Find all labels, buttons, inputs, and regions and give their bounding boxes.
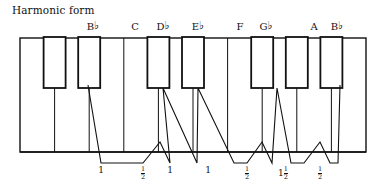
note-label-d-flat: D♭ <box>156 20 169 33</box>
interval-label-step-7: 12 <box>318 166 322 181</box>
interval-label-step-6: 112 <box>278 166 288 181</box>
note-label-c: C <box>131 20 139 33</box>
note-letter: D <box>156 21 164 32</box>
black-key-5 <box>251 37 273 88</box>
black-key-7 <box>320 37 342 88</box>
black-key-1 <box>44 37 66 88</box>
note-letter: F <box>237 21 244 32</box>
interval-label-step-5: 12 <box>245 166 249 181</box>
flat-icon: ♭ <box>94 19 99 32</box>
black-keys <box>44 37 343 88</box>
fraction-one-half: 12 <box>141 166 145 181</box>
black-key-2 <box>78 37 100 88</box>
harmonic-form-figure: Harmonic form <box>0 0 387 194</box>
black-key-6 <box>286 37 308 88</box>
fraction-one-half: 12 <box>318 166 322 181</box>
fraction-one-half: 12 <box>245 166 249 181</box>
whole-part: 1 <box>167 165 173 175</box>
interval-label-step-3: 1 <box>167 166 173 175</box>
flat-icon: ♭ <box>199 19 204 32</box>
whole-part: 1 <box>98 165 104 175</box>
interval-label-step-1: 1 <box>98 166 104 175</box>
black-key-3 <box>147 37 169 88</box>
note-letter: C <box>131 21 139 32</box>
note-label-b-flat-2: B♭ <box>331 20 344 33</box>
interval-label-step-2: 12 <box>141 166 145 181</box>
note-label-g-flat: G♭ <box>259 20 272 33</box>
note-label-f: F <box>237 20 244 33</box>
fraction-one-half: 12 <box>284 166 288 181</box>
flat-icon: ♭ <box>267 19 272 32</box>
note-letter: G <box>259 21 267 32</box>
interval-label-step-4: 1 <box>205 166 211 175</box>
black-key-4 <box>182 37 204 88</box>
whole-part: 1 <box>205 165 211 175</box>
note-label-e-flat: E♭ <box>192 20 205 33</box>
flat-icon: ♭ <box>338 19 343 32</box>
note-label-b-flat-1: B♭ <box>87 20 100 33</box>
flat-icon: ♭ <box>164 19 169 32</box>
note-letter: A <box>310 21 317 32</box>
note-label-a: A <box>310 20 317 33</box>
